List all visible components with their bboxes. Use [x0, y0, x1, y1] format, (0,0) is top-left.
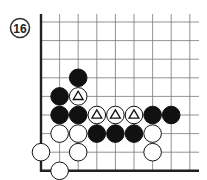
stones-layer: [32, 69, 180, 180]
black-stone: [125, 125, 143, 143]
black-stone: [69, 69, 87, 87]
white-stone: [69, 143, 87, 161]
black-stone: [69, 106, 87, 124]
white-stone: [69, 88, 87, 106]
black-stone: [51, 88, 69, 106]
go-diagram: 16: [0, 0, 207, 180]
white-stone: [107, 106, 125, 124]
problem-label: 16: [11, 19, 30, 38]
problem-number: 16: [13, 22, 27, 36]
black-stone: [144, 106, 162, 124]
white-stone: [69, 125, 87, 143]
white-stone: [144, 143, 162, 161]
white-stone: [32, 143, 50, 161]
white-stone: [51, 162, 69, 180]
white-stone: [51, 125, 69, 143]
black-stone: [162, 106, 180, 124]
black-stone: [107, 125, 125, 143]
white-stone: [88, 106, 106, 124]
black-stone: [88, 125, 106, 143]
white-stone: [125, 106, 143, 124]
black-stone: [51, 106, 69, 124]
white-stone: [144, 125, 162, 143]
